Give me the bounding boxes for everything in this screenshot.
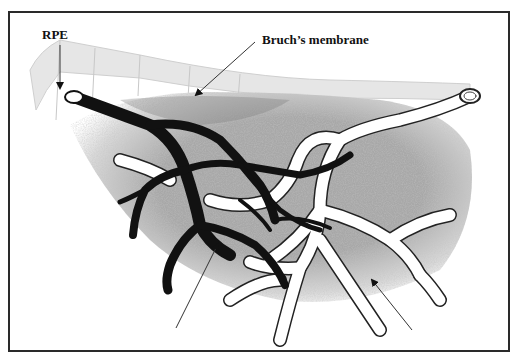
label-rpe: RPE bbox=[42, 27, 68, 43]
choroid-vessel-illustration bbox=[0, 0, 529, 363]
label-bruchs-membrane: Bruch’s membrane bbox=[262, 32, 369, 48]
arteriole-opening bbox=[65, 91, 83, 103]
venule-opening bbox=[460, 89, 480, 103]
